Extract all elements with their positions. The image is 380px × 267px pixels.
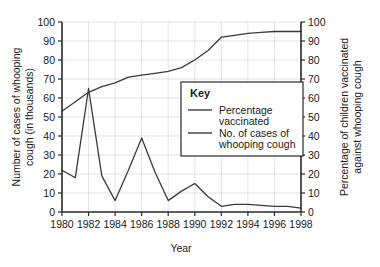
chart-canvas: 0102030405060708090100 01020304050607080…	[0, 0, 380, 267]
x-tick-label: 1980	[50, 218, 74, 230]
left-tick-label: 10	[43, 187, 55, 199]
x-tick-label: 1994	[236, 218, 260, 230]
right-tick-label: 70	[308, 73, 320, 85]
right-tick-label: 60	[308, 92, 320, 104]
left-axis-ticks: 0102030405060708090100	[37, 16, 62, 218]
x-tick-label: 1990	[183, 218, 207, 230]
right-axis-title-line1: Percentage of children vaccinated	[338, 38, 350, 196]
x-tick-label: 1988	[157, 218, 181, 230]
left-tick-label: 90	[43, 35, 55, 47]
key-label-number-of-cases-line2: whooping cough	[218, 138, 296, 150]
key-label-percentage-vaccinated-line2: vaccinated	[219, 115, 269, 127]
key-title: Key	[190, 87, 211, 99]
left-tick-label: 70	[43, 73, 55, 85]
right-axis-ticks: 0102030405060708090100	[301, 16, 326, 218]
left-tick-label: 30	[43, 149, 55, 161]
left-axis-title-line2: cough (in thousands)	[23, 68, 35, 166]
left-tick-label: 50	[43, 111, 55, 123]
right-tick-label: 90	[308, 35, 320, 47]
x-axis-title: Year	[170, 242, 192, 254]
left-tick-label: 0	[49, 206, 55, 218]
left-axis-title-line1: Number of cases of whooping	[10, 47, 22, 186]
right-tick-label: 40	[308, 130, 320, 142]
left-tick-label: 100	[37, 16, 55, 28]
left-tick-label: 40	[43, 130, 55, 142]
left-axis-title: Number of cases of whooping cough (in th…	[10, 47, 35, 186]
right-tick-label: 80	[308, 54, 320, 66]
right-tick-label: 20	[308, 168, 320, 180]
x-axis-ticks: 1980198219841986198819901992199419961998	[50, 212, 313, 230]
x-tick-label: 1982	[77, 218, 101, 230]
x-tick-label: 1992	[210, 218, 234, 230]
right-tick-label: 50	[308, 111, 320, 123]
right-tick-label: 0	[308, 206, 314, 218]
right-axis-title-line2: against whooping cough	[351, 60, 363, 173]
x-tick-label: 1996	[263, 218, 287, 230]
right-axis-title: Percentage of children vaccinated agains…	[338, 38, 363, 196]
right-tick-label: 100	[308, 16, 326, 28]
whooping-cough-chart: 0102030405060708090100 01020304050607080…	[0, 0, 380, 267]
chart-key: Key Percentage vaccinated No. of cases o…	[181, 82, 303, 156]
right-tick-label: 30	[308, 149, 320, 161]
x-tick-label: 1986	[130, 218, 154, 230]
left-tick-label: 60	[43, 92, 55, 104]
x-tick-label: 1984	[103, 218, 127, 230]
right-tick-label: 10	[308, 187, 320, 199]
left-tick-label: 80	[43, 54, 55, 66]
x-tick-label: 1998	[289, 218, 313, 230]
left-tick-label: 20	[43, 168, 55, 180]
